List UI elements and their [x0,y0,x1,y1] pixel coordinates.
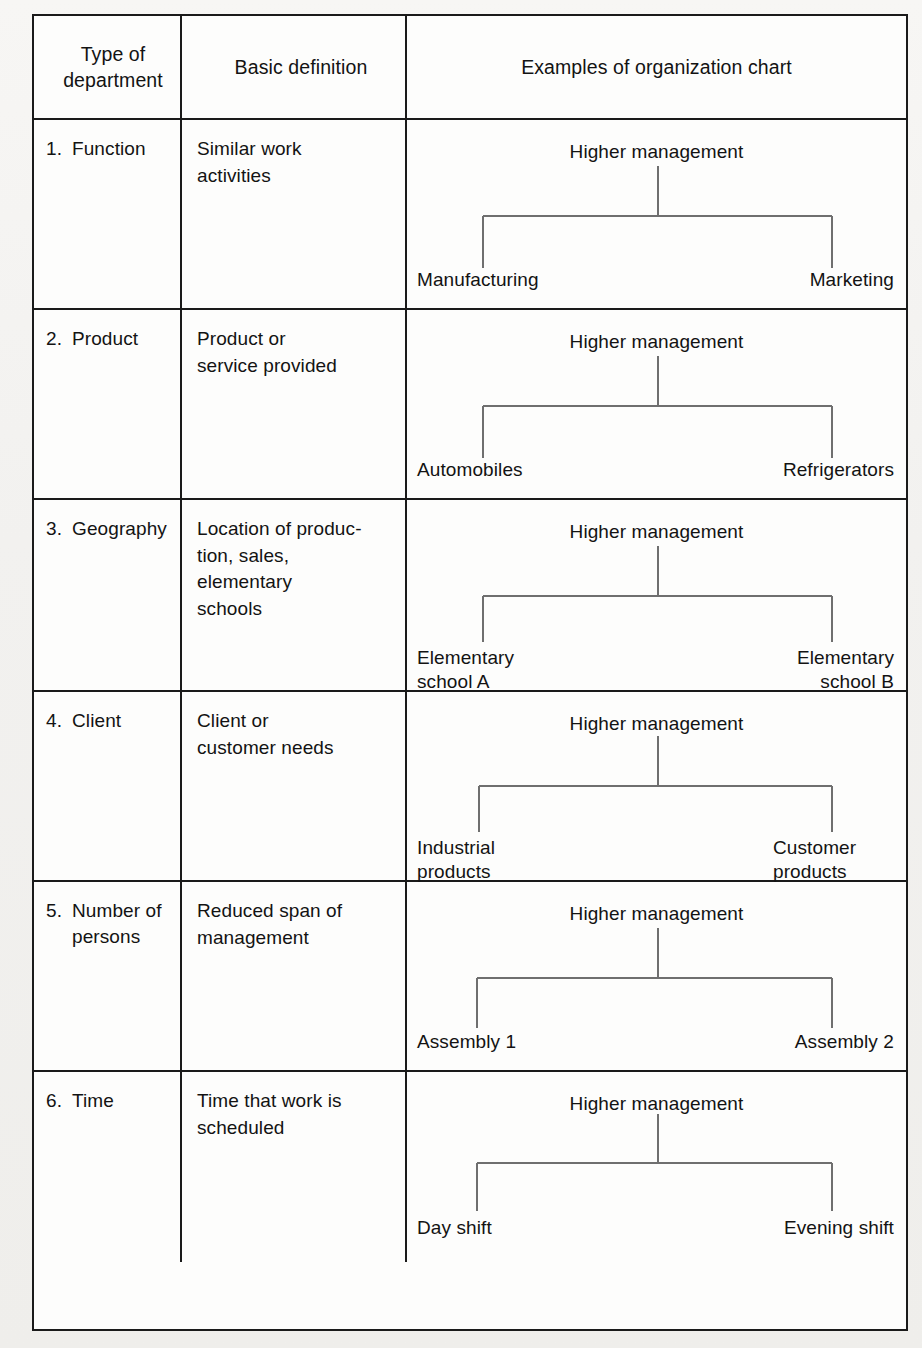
org-chart-child-label: Marketing [810,268,894,292]
cell-organization-chart: Higher management Elementary school A El… [407,500,906,690]
org-chart-child-label: Industrial products [417,836,495,884]
row-number: 6. [46,1088,72,1114]
cell-basic-definition: Product or service provided [182,310,407,498]
org-chart: Higher management Assembly 1 Assembly 2 [407,882,906,1070]
cell-type-of-department: 6. Time [34,1072,182,1262]
cell-basic-definition: Location of produc- tion, sales, element… [182,500,407,690]
cell-organization-chart: Higher management Manufacturing Marketin… [407,120,906,308]
department-type: 4. Client [46,708,180,734]
table-row: 2. Product Product or service provided H… [34,310,906,500]
cell-organization-chart: Higher management Assembly 1 Assembly 2 [407,882,906,1070]
org-chart-child-label: Refrigerators [783,458,894,482]
department-type-label: Time [72,1088,114,1114]
cell-type-of-department: 3. Geography [34,500,182,690]
table-row: 4. Client Client or customer needs Highe… [34,692,906,882]
definition-text: Reduced span of management [197,898,405,951]
department-type: 2. Product [46,326,180,352]
cell-organization-chart: Higher management Day shift Evening shif… [407,1072,906,1262]
org-chart-child-label: Day shift [417,1216,492,1240]
department-type: 5. Number of persons [46,898,180,950]
org-chart: Higher management Elementary school A El… [407,500,906,690]
table-row: 5. Number of persons Reduced span of man… [34,882,906,1072]
header-cell-type-of-department: Type of department [34,16,182,118]
org-chart-child-label: Elementary school B [797,646,894,694]
cell-basic-definition: Reduced span of management [182,882,407,1070]
definition-text: Time that work is scheduled [197,1088,405,1141]
definition-text: Product or service provided [197,326,405,379]
department-type: 1. Function [46,136,180,162]
table-row: 3. Geography Location of produc- tion, s… [34,500,906,692]
definition-text: Similar work activities [197,136,405,189]
department-types-table: Type of department Basic definition Exam… [32,14,908,1331]
table-row: 6. Time Time that work is scheduled High… [34,1072,906,1262]
cell-basic-definition: Similar work activities [182,120,407,308]
cell-type-of-department: 2. Product [34,310,182,498]
org-chart: Higher management Automobiles Refrigerat… [407,310,906,498]
cell-organization-chart: Higher management Automobiles Refrigerat… [407,310,906,498]
table-header-row: Type of department Basic definition Exam… [34,16,906,120]
department-type-label: Geography [72,516,167,542]
row-number: 1. [46,136,72,162]
column-header-label: Basic definition [235,54,368,80]
department-type: 3. Geography [46,516,180,542]
header-cell-examples-of-organization-chart: Examples of organization chart [407,16,906,118]
org-chart-child-label: Evening shift [784,1216,894,1240]
definition-text: Location of produc- tion, sales, element… [197,516,405,622]
org-chart-child-label: Automobiles [417,458,523,482]
org-chart: Higher management Manufacturing Marketin… [407,120,906,308]
row-number: 4. [46,708,72,734]
cell-basic-definition: Time that work is scheduled [182,1072,407,1262]
column-header-label: Examples of organization chart [521,54,792,80]
cell-organization-chart: Higher management Industrial products Cu… [407,692,906,880]
org-chart-child-label: Assembly 1 [417,1030,516,1054]
department-type-label: Product [72,326,138,352]
cell-type-of-department: 1. Function [34,120,182,308]
org-chart: Higher management Industrial products Cu… [407,692,906,880]
header-cell-basic-definition: Basic definition [182,16,407,118]
department-type-label: Function [72,136,146,162]
org-chart-child-label: Customer products [773,836,856,884]
column-header-label: Type of department [46,41,180,93]
row-number: 3. [46,516,72,542]
department-type-label: Client [72,708,121,734]
cell-basic-definition: Client or customer needs [182,692,407,880]
table-row: 1. Function Similar work activities High… [34,120,906,310]
department-type-label: Number of persons [72,898,162,950]
row-number: 5. [46,898,72,950]
org-chart-child-label: Manufacturing [417,268,539,292]
org-chart-child-label: Elementary school A [417,646,514,694]
cell-type-of-department: 5. Number of persons [34,882,182,1070]
org-chart-child-label: Assembly 2 [795,1030,894,1054]
row-number: 2. [46,326,72,352]
cell-type-of-department: 4. Client [34,692,182,880]
department-type: 6. Time [46,1088,180,1114]
definition-text: Client or customer needs [197,708,405,761]
org-chart: Higher management Day shift Evening shif… [407,1072,906,1262]
